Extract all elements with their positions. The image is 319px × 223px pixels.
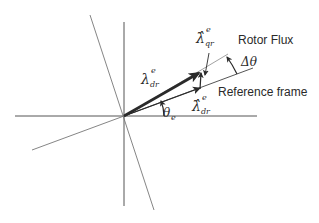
lambda-hat-qr-label: λ̂ [195, 30, 205, 46]
lambda-hat-dr-superscript: e [202, 93, 207, 102]
lambda-hat-dr-subscript: dr [201, 107, 211, 116]
theta-e-label: θ [163, 106, 171, 120]
lambda-hat-qr-leader [205, 53, 209, 75]
lambda-hat-qr-subscript: qr [205, 39, 215, 48]
vector-diagram: Rotor Flux Reference frame Δθ θ e λ e dr… [0, 0, 319, 223]
lambda-dr-superscript: e [151, 66, 156, 75]
delta-theta-label: Δθ [240, 55, 258, 69]
lambda-hat-dr-label: λ̂ [191, 98, 201, 114]
lambda-hat-qr-superscript: e [206, 25, 211, 34]
steep-axis-line [90, 15, 154, 210]
rotor-flux-label: Rotor Flux [238, 33, 293, 47]
lambda-dr-label: λ [140, 71, 150, 87]
lambda-dr-subscript: dr [150, 80, 160, 89]
delta-theta-arc [227, 57, 237, 74]
reference-frame-label: Reference frame [218, 85, 308, 99]
theta-e-subscript: e [171, 113, 176, 122]
lambda-dr-vector [124, 73, 199, 116]
lower-left-axis-line [32, 116, 124, 150]
lambda-hat-qr-vector [200, 73, 201, 89]
